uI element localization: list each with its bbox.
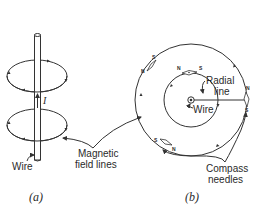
magnetic-field-diagram: I Wire (a) Magnetic field lines bbox=[0, 0, 255, 207]
svg-text:N: N bbox=[172, 146, 176, 152]
panel-b: S N N S N S S N Radial line Wire Compass… bbox=[135, 44, 250, 204]
compass-needles-label-line1: Compass bbox=[206, 163, 248, 174]
panel-a: I Wire (a) bbox=[7, 34, 68, 205]
svg-text:N: N bbox=[141, 68, 145, 74]
svg-text:S: S bbox=[245, 107, 249, 113]
panel-b-caption: (b) bbox=[185, 190, 199, 204]
compass-needles-label-line2: needles bbox=[208, 174, 243, 185]
wire-label-a: Wire bbox=[12, 161, 33, 172]
compass-needle-inner-top: N S bbox=[177, 65, 203, 75]
wire-cross-section bbox=[188, 97, 194, 103]
compass-needle-outer-right: N S bbox=[244, 85, 250, 113]
svg-text:N: N bbox=[246, 85, 250, 91]
panel-a-caption: (a) bbox=[29, 190, 43, 204]
svg-text:S: S bbox=[154, 137, 158, 143]
wire-label-b: Wire bbox=[193, 104, 214, 115]
current-label: I bbox=[42, 95, 47, 106]
field-lines-label: Magnetic field lines bbox=[63, 117, 141, 170]
radial-line-label-line1: Radial bbox=[206, 75, 234, 86]
svg-text:N: N bbox=[177, 65, 181, 71]
field-lines-label-line1: Magnetic bbox=[78, 148, 119, 159]
svg-text:S: S bbox=[199, 65, 203, 71]
field-lines-label-line2: field lines bbox=[75, 159, 117, 170]
radial-line-label-line2: line bbox=[214, 86, 230, 97]
